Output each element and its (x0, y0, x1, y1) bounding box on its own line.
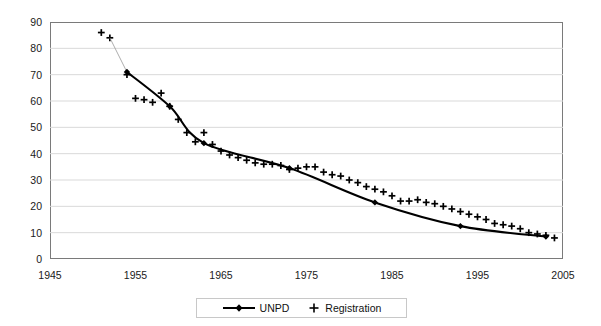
legend-label-registration: Registration (325, 302, 381, 314)
legend-item-unpd: UNPD (222, 302, 290, 314)
legend-label-unpd: UNPD (260, 302, 290, 314)
legend-item-registration: Registration (307, 302, 381, 314)
chart-plot-svg (0, 0, 601, 326)
legend-plus-icon (307, 302, 321, 314)
series-registration-markers (98, 29, 558, 241)
chart-legend: UNPD Registration (196, 298, 407, 318)
series-unpd-markers (124, 69, 549, 240)
legend-line-diamond-icon (222, 302, 256, 314)
chart-container: 0102030405060708090 19451955196519751985… (0, 0, 601, 326)
